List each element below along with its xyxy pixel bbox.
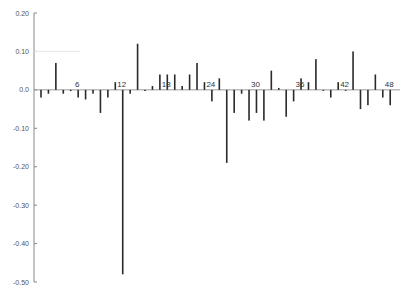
bar-lag-37 xyxy=(308,82,310,90)
x-lag-label: 36 xyxy=(296,80,305,89)
bar-lag-15 xyxy=(144,90,146,91)
bar-lag-48 xyxy=(389,90,391,105)
bar-lag-23 xyxy=(204,82,206,90)
bar-lag-43 xyxy=(352,51,354,89)
bar-lag-17 xyxy=(159,74,161,89)
bar-lag-27 xyxy=(233,90,235,113)
y-tick-label: -0.10 xyxy=(13,125,29,132)
bar-lag-26 xyxy=(226,90,228,163)
x-axis-labels: 612182430364248 xyxy=(75,80,394,89)
bar-lag-42 xyxy=(345,90,347,91)
bar-lag-5 xyxy=(70,90,72,91)
bar-lag-14 xyxy=(137,44,139,90)
bar-lag-6 xyxy=(77,90,79,98)
bar-lag-47 xyxy=(382,90,384,98)
y-tick-label: 0.20 xyxy=(15,10,29,17)
bar-lag-45 xyxy=(367,90,369,105)
x-lag-label: 30 xyxy=(251,80,260,89)
y-axis: 0.200.100.0-0.10-0.20-0.30-0.40-0.50 xyxy=(13,10,80,286)
bar-lag-25 xyxy=(219,78,221,90)
bar-lag-24 xyxy=(211,90,213,102)
bar-lag-38 xyxy=(315,59,317,90)
bar-lag-1 xyxy=(40,90,42,98)
y-tick-label: -0.30 xyxy=(13,202,29,209)
bar-lag-13 xyxy=(129,90,131,94)
bar-lag-40 xyxy=(330,90,332,98)
y-tick-label: 0.10 xyxy=(15,48,29,55)
x-lag-label: 24 xyxy=(206,80,215,89)
bar-lag-30 xyxy=(256,90,258,113)
bar-series xyxy=(40,44,391,275)
bar-lag-7 xyxy=(85,90,87,100)
bar-lag-28 xyxy=(241,90,243,94)
bar-lag-44 xyxy=(360,90,362,109)
bar-lag-12 xyxy=(122,90,124,274)
bar-lag-21 xyxy=(189,74,191,89)
x-lag-label: 6 xyxy=(75,80,80,89)
bar-lag-10 xyxy=(107,90,109,98)
y-tick-label: -0.20 xyxy=(13,163,29,170)
bar-lag-11 xyxy=(115,82,117,90)
bar-lag-41 xyxy=(337,82,339,90)
bar-lag-16 xyxy=(152,86,154,90)
bar-lag-3 xyxy=(55,63,57,90)
bar-lag-20 xyxy=(181,86,183,90)
x-lag-label: 48 xyxy=(385,80,394,89)
x-lag-label: 42 xyxy=(340,80,349,89)
bar-lag-9 xyxy=(100,90,102,113)
bar-lag-31 xyxy=(263,90,265,121)
bar-lag-33 xyxy=(278,88,280,90)
bar-lag-19 xyxy=(174,74,176,89)
bar-lag-39 xyxy=(323,90,325,91)
bar-lag-34 xyxy=(285,90,287,117)
bar-lag-32 xyxy=(271,71,273,90)
bar-lag-4 xyxy=(62,90,64,94)
bar-lag-22 xyxy=(196,63,198,90)
bar-lag-2 xyxy=(48,90,50,94)
x-lag-label: 18 xyxy=(162,80,171,89)
bar-lag-46 xyxy=(375,74,377,89)
y-tick-label: -0.40 xyxy=(13,240,29,247)
bar-lag-35 xyxy=(293,90,295,102)
bar-lag-29 xyxy=(248,90,250,121)
bar-lag-8 xyxy=(92,90,94,94)
y-tick-label: -0.50 xyxy=(13,279,29,286)
x-lag-label: 12 xyxy=(117,80,126,89)
autocorrelation-bar-chart: 0.200.100.0-0.10-0.20-0.30-0.40-0.50 612… xyxy=(0,0,414,291)
y-tick-label: 0.0 xyxy=(19,86,29,93)
